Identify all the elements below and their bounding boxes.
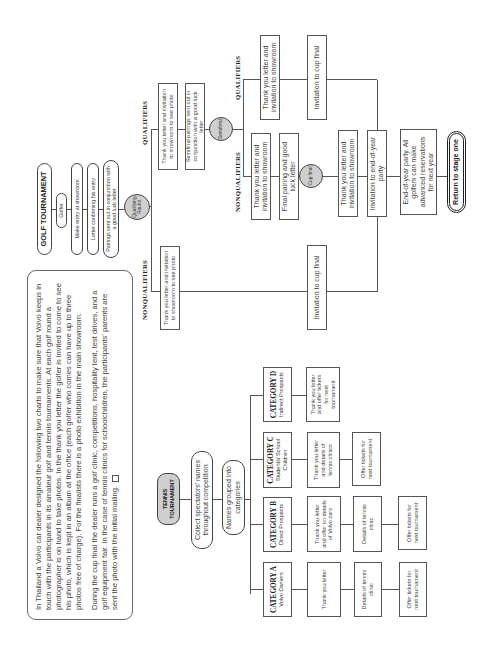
connector-line xyxy=(377,80,378,130)
category-d-name: CATEGORY D xyxy=(270,371,278,418)
q2-thank-you-box: Thank you letter and invitation to showr… xyxy=(260,35,280,120)
nq2-final-pairing-box: Final pairing and good luck letter xyxy=(279,133,299,220)
q1-semifinal-pairings-box: Semifinal pairings sent out in conjuncti… xyxy=(185,83,205,170)
connector-line xyxy=(233,129,243,130)
category-c-name: CATEGORY C xyxy=(267,436,275,483)
category-c-step-2: Offer tickets for next tournament xyxy=(352,432,381,486)
intro-paragraph-1: In Thailand a Volvo car dealer designed … xyxy=(34,280,84,610)
tennis-step-collect-names: Collect spectators' names throughout com… xyxy=(191,451,213,549)
golf-step-letter-confirming: Letter confirming his entry xyxy=(87,163,99,255)
category-a-subtitle: Volvo Owners xyxy=(278,572,284,607)
connector-line xyxy=(151,129,158,130)
golf-step-make-entry: Make entry at showroom xyxy=(71,163,83,255)
category-d-step-1: Thank you letter and offer tickets for n… xyxy=(306,367,340,422)
category-b-step-3: Offer tickets for next tournament xyxy=(398,496,427,550)
qualifiers-2-label: QUALIFIERS xyxy=(234,56,241,100)
square-end-mark-icon xyxy=(112,475,119,482)
intro-text-box: In Thailand a Volvo car dealer designed … xyxy=(27,270,133,620)
nq1-thank-you-box: Thank you letter and invitation to showr… xyxy=(160,246,180,330)
return-to-stage-one: Return to stage one xyxy=(447,131,466,213)
q2-invitation-cup-final-box: Invitation to cup final xyxy=(307,35,327,120)
after-final-thank-you-box: Thank you letter and invitation to showr… xyxy=(338,130,358,217)
intro-paragraph-2-text: During the cup final the dealer runs a g… xyxy=(90,290,119,610)
end-of-year-party-box: End-of-year party. All golfers can make … xyxy=(400,129,437,215)
q1-thank-you-box: Thank you letter and invitation to showr… xyxy=(158,83,178,170)
connector-line xyxy=(178,129,185,130)
golf-tournament-title: GOLF TOURNAMENT xyxy=(37,163,52,255)
golf-branch-spine xyxy=(151,130,152,292)
nonqualifiers-label: NONQUALIFIERS xyxy=(141,260,148,320)
nq1-invitation-cup-final-box: Invitation to cup final xyxy=(307,245,327,330)
rotated-document-page: In Thailand a Volvo car dealer designed … xyxy=(0,0,494,662)
qualifiers-label: QUALIFIERS xyxy=(141,101,148,145)
cup-final-circle: Cup final xyxy=(299,164,323,188)
category-b-step-1: Thank you letter and offer on details of… xyxy=(307,496,341,552)
nonqualifiers-2-label: NONQUALIFIERS xyxy=(234,152,241,212)
category-c-subtitle: Students/ School Children xyxy=(275,433,288,487)
golf-branch-spine-2 xyxy=(243,80,244,177)
connector-line xyxy=(213,499,222,500)
tennis-category-spine xyxy=(250,396,251,594)
category-a: CATEGORY A Volvo Owners xyxy=(263,562,292,617)
invitation-end-of-year-party-box: Invitation to end-of-year party xyxy=(367,130,387,217)
category-b-name: CATEGORY B xyxy=(270,501,278,548)
category-c: CATEGORY C Students/ School Children xyxy=(263,432,292,488)
semifinal-circle: Semifinal xyxy=(209,117,233,141)
connector-line xyxy=(151,291,377,292)
category-a-name: CATEGORY A xyxy=(270,566,278,613)
tennis-step-names-grouped: Names grouped into categories xyxy=(222,460,245,535)
category-d-subtitle: Indirect Prospects xyxy=(278,372,284,417)
category-b-step-2: Details of tennis clinic xyxy=(353,496,382,552)
category-b: CATEGORY B Direct Prospects xyxy=(263,497,292,552)
category-a-step-1: Thank you letter xyxy=(307,562,341,617)
qualifying-round-circle: Qualifying Round xyxy=(124,194,150,220)
connector-line xyxy=(377,217,378,292)
nq2-thank-you-box: Thank you letter and invitation to showr… xyxy=(251,133,271,220)
golf-step-pairings: Pairings sent out in conjunction with a … xyxy=(103,160,119,258)
category-b-subtitle: Direct Prospects xyxy=(278,504,284,545)
category-a-step-3: Offer tickets for next tournament xyxy=(399,562,427,617)
golf-step-golfer: Golfer xyxy=(56,193,67,228)
connector-line xyxy=(180,499,191,500)
intro-paragraph-2: During the cup final the dealer runs a g… xyxy=(90,280,120,610)
category-a-step-2: Details of tennis clinic xyxy=(354,562,382,617)
category-d: CATEGORY D Indirect Prospects xyxy=(263,367,292,422)
category-c-step-1: Thank you letter and details of tennis c… xyxy=(307,432,340,488)
tennis-tournament-title: TENNIS TOURNAMENT xyxy=(157,473,180,525)
